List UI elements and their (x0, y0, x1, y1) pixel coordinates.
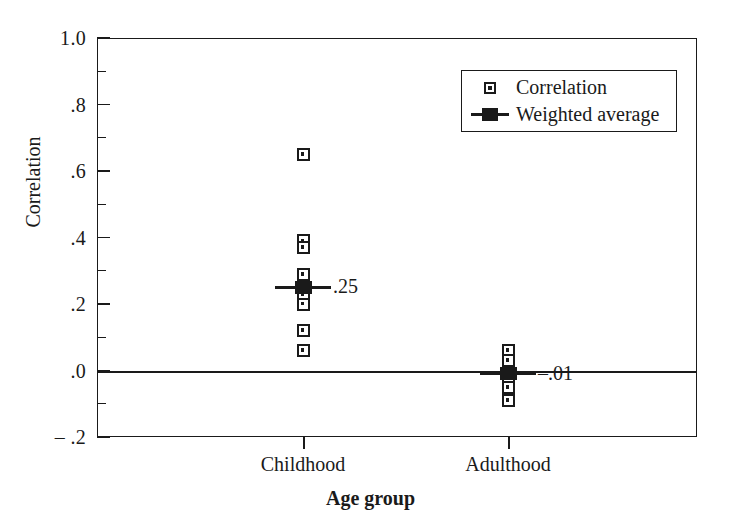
correlation-point-marker (297, 298, 310, 311)
y-tick-label: – .2 (18, 427, 86, 447)
y-tick-minor (97, 270, 106, 271)
correlation-point-marker (297, 241, 310, 254)
y-tick-major (97, 237, 110, 239)
weighted-average-value-label: –.01 (538, 363, 573, 383)
y-tick-major (97, 170, 110, 172)
y-tick-major (97, 37, 110, 39)
y-tick-minor (97, 337, 106, 338)
legend-key-correlation (470, 74, 514, 101)
weighted-average-marker (500, 367, 517, 380)
weighted-average-marker (295, 281, 312, 294)
y-tick-major (97, 436, 110, 438)
correlation-point-marker (502, 381, 515, 394)
filled-square-marker-icon (482, 108, 498, 121)
y-tick-major (97, 303, 110, 305)
y-tick-major (97, 370, 110, 372)
legend-label-weighted-average: Weighted average (516, 101, 674, 128)
chart-legend: Correlation Weighted average (461, 70, 677, 132)
x-tick-adulthood (508, 437, 510, 449)
weighted-average-value-label: .25 (333, 276, 358, 296)
legend-item-correlation: Correlation (462, 74, 678, 101)
correlation-point-marker (297, 324, 310, 337)
x-axis-title: Age group (0, 486, 741, 510)
y-tick-major (97, 104, 110, 106)
x-tick-label-adulthood: Adulthood (413, 452, 603, 476)
y-tick-minor (97, 204, 106, 205)
open-square-marker-icon (484, 82, 496, 94)
legend-key-weighted-average (470, 101, 514, 128)
y-tick-label: 1.0 (18, 28, 86, 48)
y-tick-minor (97, 403, 106, 404)
correlation-point-marker (297, 344, 310, 357)
y-tick-minor (97, 71, 106, 72)
y-tick-label: .2 (18, 294, 86, 314)
x-tick-label-childhood: Childhood (208, 452, 398, 476)
legend-item-weighted-average: Weighted average (462, 101, 678, 128)
legend-label-correlation: Correlation (516, 74, 674, 101)
correlation-point-marker (502, 394, 515, 407)
y-axis-title: Correlation (19, 72, 47, 292)
correlation-by-age-group-chart: 1.0.8.6.4.2.0– .2 Correlation Childhood … (0, 0, 741, 531)
correlation-point-marker (297, 268, 310, 281)
x-tick-childhood (303, 437, 305, 449)
correlation-point-marker (502, 354, 515, 367)
correlation-point-marker (297, 148, 310, 161)
y-tick-label: .0 (18, 361, 86, 381)
y-tick-minor (97, 137, 106, 138)
zero-reference-line (97, 371, 697, 373)
